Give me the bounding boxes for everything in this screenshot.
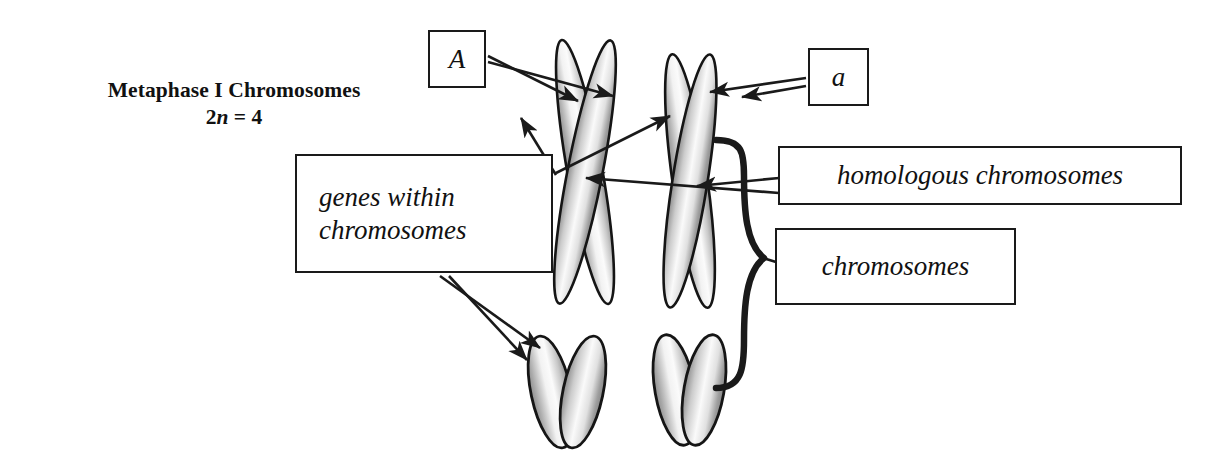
label-genes-line2: chromosomes — [319, 215, 467, 245]
leader-a-to-chromatid-1 — [710, 78, 806, 92]
label-allele-dominant: A — [449, 43, 466, 76]
ploidy-suffix: = 4 — [228, 105, 262, 129]
chromosome-short-left — [520, 332, 615, 452]
label-homologous-chromosomes: homologous chromosomes — [837, 159, 1123, 192]
label-box-chromosomes[interactable]: chromosomes — [775, 228, 1016, 305]
label-box-allele-dominant[interactable]: A — [428, 30, 486, 88]
label-genes-within-chromosomes: genes within chromosomes — [319, 181, 467, 247]
label-allele-recessive: a — [832, 61, 846, 94]
label-box-genes-within-chromosomes[interactable]: genes within chromosomes — [295, 154, 553, 273]
figure-canvas: Metaphase I Chromosomes 2n = 4 A a genes… — [0, 0, 1224, 475]
chromosome-diagram-artwork — [0, 0, 1224, 475]
figure-title-ploidy: 2n = 4 — [56, 105, 412, 130]
label-chromosomes: chromosomes — [822, 250, 970, 283]
label-box-homologous-chromosomes[interactable]: homologous chromosomes — [778, 146, 1182, 205]
figure-title-line1: Metaphase I Chromosomes — [56, 78, 412, 103]
figure-title: Metaphase I Chromosomes 2n = 4 — [56, 78, 412, 131]
ploidy-variable: n — [217, 105, 229, 129]
ploidy-prefix: 2 — [206, 105, 217, 129]
leader-genes-to-short-left-2 — [449, 276, 527, 360]
leader-genes-to-short-left-1 — [440, 276, 540, 348]
leader-a-to-chromatid-2 — [742, 86, 806, 97]
label-genes-line1: genes within — [319, 182, 455, 212]
label-box-allele-recessive[interactable]: a — [808, 48, 869, 106]
